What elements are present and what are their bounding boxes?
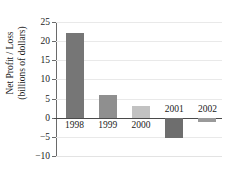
bar-chart: Net Profit / Loss (billions of dollars) … — [0, 0, 225, 178]
bar — [132, 106, 150, 117]
y-axis-tick — [52, 41, 56, 42]
y-axis-tick — [52, 99, 56, 100]
y-axis-title-line-1: Net Profit / Loss — [5, 0, 17, 130]
zero-axis-line — [54, 118, 222, 119]
y-axis-tick-label: 5 — [45, 94, 50, 104]
y-axis-tick — [52, 22, 56, 23]
y-axis-tick — [52, 156, 56, 157]
y-axis-tick-label: 0 — [45, 113, 50, 123]
plot-area: 2520151050−5−10 19981999200020012002 — [56, 22, 222, 156]
x-axis-category-label: 1998 — [65, 120, 84, 130]
y-axis-tick-label: 10 — [41, 74, 51, 84]
y-axis-title: Net Profit / Loss (billions of dollars) — [5, 0, 35, 130]
x-axis-category-label: 1999 — [98, 120, 117, 130]
y-axis-tick-label: −10 — [35, 151, 50, 161]
y-axis-tick-label: 25 — [41, 17, 51, 27]
y-axis-tick — [52, 79, 56, 80]
y-axis-tick-label: 15 — [41, 55, 51, 65]
gridline — [56, 22, 222, 23]
x-axis-category-label: 2000 — [132, 120, 151, 130]
bar — [66, 33, 84, 117]
x-axis-category-label: 2002 — [198, 104, 217, 114]
y-axis-tick — [52, 60, 56, 61]
bar — [99, 95, 117, 118]
y-axis-title-line-2: (billions of dollars) — [17, 0, 29, 130]
gridline — [56, 156, 222, 157]
y-axis-tick-label: 20 — [41, 36, 51, 46]
gridline — [56, 137, 222, 138]
y-axis-tick — [52, 137, 56, 138]
bar — [165, 118, 183, 138]
x-axis-category-label: 2001 — [165, 104, 184, 114]
y-axis-tick-label: −5 — [40, 132, 50, 142]
bar — [198, 118, 216, 122]
